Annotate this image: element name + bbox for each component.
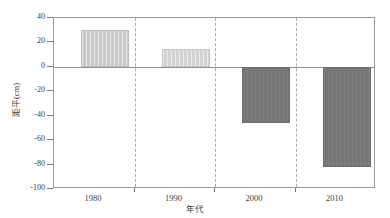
y-tick-label: 20	[37, 37, 45, 45]
x-tick-label-2000: 2000	[224, 193, 284, 203]
bar-1990	[162, 49, 210, 67]
category-separator	[135, 18, 136, 187]
x-tick-label-2010: 2010	[305, 193, 365, 203]
y-tick-label: -20	[34, 86, 45, 94]
y-tick-label: 0	[41, 62, 45, 70]
y-tick-label: -40	[34, 111, 45, 119]
y-axis-title: 距平(cm)	[11, 65, 21, 135]
y-tick-label: -100	[30, 184, 45, 192]
bar-2010	[323, 67, 371, 167]
bar-2000	[242, 67, 290, 123]
x-axis-title: 年代	[0, 204, 390, 214]
x-tick-mark	[214, 188, 215, 192]
y-tick-label: -80	[34, 160, 45, 168]
plot-area	[53, 17, 375, 188]
x-tick-mark	[295, 188, 296, 192]
x-tick-mark	[134, 188, 135, 192]
bar-chart-figure: 距平(cm) 40 20 0 -20 -40 -60 -80 -100 1980…	[0, 0, 390, 218]
y-tick-label: -60	[34, 135, 45, 143]
x-tick-label-1990: 1990	[144, 193, 204, 203]
bar-1980	[81, 30, 129, 67]
y-tick-label: 40	[37, 13, 45, 21]
category-separator	[215, 18, 216, 187]
category-separator	[296, 18, 297, 187]
x-tick-label-1980: 1980	[63, 193, 123, 203]
y-tick-mark	[47, 188, 53, 189]
